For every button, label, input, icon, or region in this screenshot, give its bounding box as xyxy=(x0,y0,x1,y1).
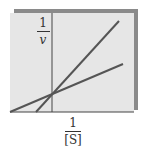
x-label-numerator: 1 xyxy=(69,117,77,129)
x-label-fraction-bar xyxy=(65,131,81,132)
y-axis-label: 1 v xyxy=(34,17,52,46)
panel-top-shadow xyxy=(14,9,138,13)
panel-right-shadow xyxy=(134,9,138,110)
x-axis-label: 1 [S] xyxy=(62,117,84,146)
y-label-numerator: 1 xyxy=(39,17,47,29)
y-label-fraction-bar xyxy=(37,31,50,32)
plot-panel xyxy=(10,13,134,112)
y-label-denominator: v xyxy=(40,34,47,46)
x-label-denominator: [S] xyxy=(64,134,82,146)
